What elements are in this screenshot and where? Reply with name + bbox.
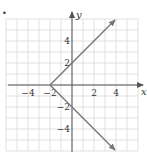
axes: xy (8, 9, 147, 152)
y-axis-label: y (75, 9, 82, 20)
y-tick-label: −4 (57, 124, 71, 134)
x-tick-label: 2 (91, 88, 97, 98)
x-axis-label: x (141, 86, 147, 97)
x-tick-label: 4 (113, 88, 119, 98)
graph-plot: xy −4−22442−2−4 (0, 0, 147, 155)
x-tick-label: −4 (21, 88, 35, 98)
y-tick-label: 4 (64, 36, 70, 46)
